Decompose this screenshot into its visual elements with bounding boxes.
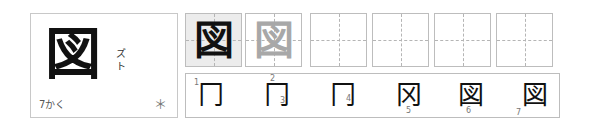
reading-1: ズ <box>115 47 127 60</box>
stroke-step-5: 図 6 <box>452 78 492 114</box>
reading-2: ト <box>115 60 127 73</box>
model-character: 図 <box>186 14 241 66</box>
stroke-step-3: 冂 4 <box>324 78 364 114</box>
practice-box-6[interactable] <box>496 13 553 67</box>
practice-box-4[interactable] <box>372 13 429 67</box>
stroke-step-1: 冂 1 <box>192 78 232 114</box>
stroke-step-6: 図 7 <box>516 78 556 114</box>
kanji-readings: ズ ト <box>115 47 127 73</box>
asterisk-mark: ＊ <box>154 94 167 113</box>
kanji-info-card: 図 ズ ト 7かく ＊ <box>30 13 178 118</box>
practice-box-1: 図 <box>185 13 242 67</box>
trace-character: 図 <box>246 14 301 66</box>
stroke-step-2: 冂 2 3 <box>258 78 298 114</box>
practice-box-3[interactable] <box>310 13 367 67</box>
stroke-order-panel: 冂 1 冂 2 3 冂 4 冈 5 図 6 図 7 <box>185 73 560 118</box>
practice-box-5[interactable] <box>434 13 491 67</box>
kanji-character: 図 <box>45 24 101 84</box>
stroke-step-4: 冈 5 <box>390 78 430 114</box>
stroke-count: 7かく <box>39 96 65 111</box>
practice-box-2: 図 <box>245 13 302 67</box>
